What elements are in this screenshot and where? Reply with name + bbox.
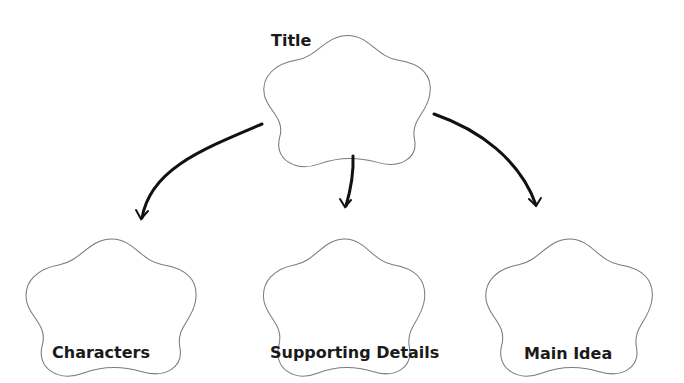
cloud-title: [264, 35, 431, 166]
label-main-idea: Main Idea: [524, 344, 612, 363]
arrow-to-characters: [136, 124, 262, 219]
label-title: Title: [271, 31, 311, 50]
label-characters: Characters: [52, 343, 150, 362]
label-supporting-details: Supporting Details: [270, 343, 439, 362]
diagram-canvas: [0, 0, 684, 383]
graphic-organizer: Title Characters Supporting Details Main…: [0, 0, 684, 383]
arrow-to-main-idea: [434, 114, 541, 206]
arrow-to-supporting-details: [340, 156, 353, 207]
